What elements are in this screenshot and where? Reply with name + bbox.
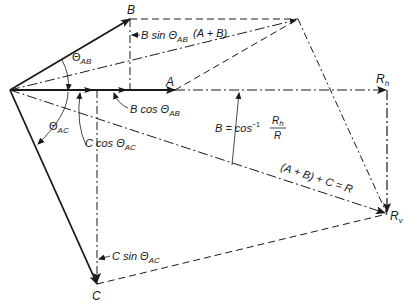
label-theta-AB: ΘAB	[72, 51, 92, 66]
svg-text:B = cos−1: B = cos−1	[215, 121, 260, 134]
C-sin-leader	[99, 256, 110, 259]
R-resultant	[10, 90, 385, 213]
C-to-Rv-dashed	[97, 214, 387, 284]
vector-B	[10, 19, 130, 90]
label-theta-AC: ΘAC	[49, 120, 69, 135]
B-cos-leader	[114, 93, 128, 108]
svg-text:Rh: Rh	[272, 115, 284, 128]
label-B-sin: B sin ΘAB	[141, 29, 188, 44]
label-resultant-eq: (A + B) + C = R	[279, 160, 354, 195]
vector-diagram: B A C Rh Rv B sin ΘAB (A + B) B cos ΘAB …	[0, 0, 404, 304]
label-B: B	[127, 3, 135, 17]
label-C-sin: C sin ΘAC	[112, 250, 160, 265]
label-Rv: Rv	[390, 209, 404, 225]
label-C: C	[92, 289, 101, 303]
label-C-cos: C cos ΘAC	[85, 137, 136, 152]
label-A-plus-B: (A + B)	[193, 27, 227, 39]
theta-AB-arc	[62, 60, 68, 90]
svg-text:R: R	[274, 130, 281, 141]
label-Rh: Rh	[376, 72, 390, 88]
label-A: A	[165, 75, 174, 89]
theta-AC-arc	[38, 92, 68, 144]
angle-equation: B = cos−1 Rh R	[215, 115, 286, 141]
label-B-cos: B cos ΘAB	[130, 103, 180, 118]
